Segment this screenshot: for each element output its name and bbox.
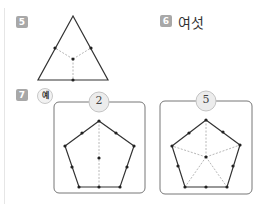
problem-7-badge: 7 (16, 89, 28, 101)
problem-6-answer: 여섯 (178, 12, 204, 32)
problem-6-badge: 6 (160, 15, 172, 27)
example-label: 예 (37, 88, 53, 104)
triangle-figure (38, 16, 108, 82)
example-box-1 (54, 92, 145, 193)
box-2-count-label: 5 (196, 93, 216, 106)
box-1-count-label: 2 (89, 94, 109, 107)
example-box-2 (160, 91, 252, 194)
